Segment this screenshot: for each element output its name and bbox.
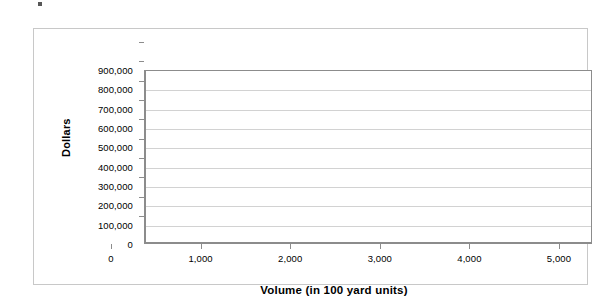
gridline	[146, 226, 591, 227]
gridline	[146, 187, 591, 188]
y-axis-tick-mark	[139, 177, 144, 178]
plot-area	[144, 70, 592, 244]
y-axis-tick-mark	[139, 61, 144, 62]
y-axis-tick-mark	[139, 139, 144, 140]
x-axis-title: Volume (in 100 yard units)	[34, 284, 600, 296]
x-axis-tick-mark	[469, 244, 470, 249]
x-axis-tick-mark	[111, 244, 112, 249]
x-axis-tick-mark	[201, 244, 202, 249]
gridline	[146, 148, 591, 149]
y-axis-tick-mark	[139, 158, 144, 159]
gridline	[146, 90, 591, 91]
gridline	[146, 168, 591, 169]
y-axis-tick-mark	[139, 100, 144, 101]
x-axis-tick-mark	[290, 244, 291, 249]
y-axis-tick-mark	[139, 216, 144, 217]
y-axis-tick-label: 500,000	[98, 142, 133, 153]
gridline	[146, 206, 591, 207]
y-axis-tick-label-group: 0100,000200,000300,000400,000500,000600,…	[67, 70, 139, 244]
x-axis-tick-label: 5,000	[547, 253, 571, 264]
y-axis-tick-label: 400,000	[98, 161, 133, 172]
x-axis-tick-mark	[559, 244, 560, 249]
scan-artifact-speck	[38, 2, 42, 6]
x-axis-tick-label: 0	[108, 253, 113, 264]
y-axis-tick-label: 300,000	[98, 181, 133, 192]
y-axis-tick-label: 700,000	[98, 103, 133, 114]
x-axis-tick-label: 1,000	[188, 253, 212, 264]
y-axis-tick-label: 200,000	[98, 200, 133, 211]
y-axis-tick-mark	[139, 81, 144, 82]
chart-figure-frame: Dollars 0100,000200,000300,000400,000500…	[33, 28, 588, 285]
x-axis-tick-mark	[380, 244, 381, 249]
y-axis-tick-label: 600,000	[98, 123, 133, 134]
gridline	[146, 129, 591, 130]
x-axis-tick-label: 4,000	[457, 253, 481, 264]
gridline	[146, 110, 591, 111]
x-axis-tick-label: 3,000	[368, 253, 392, 264]
y-axis-tick-mark	[139, 42, 144, 43]
x-axis-tick-label: 2,000	[278, 253, 302, 264]
y-axis-tick-label: 0	[128, 239, 133, 250]
y-axis-tick-label: 800,000	[98, 84, 133, 95]
y-axis-tick-label: 900,000	[98, 65, 133, 76]
y-axis-tick-mark	[139, 197, 144, 198]
y-axis-tick-mark	[139, 119, 144, 120]
y-axis-tick-label: 100,000	[98, 219, 133, 230]
horizontal-gridline-group	[146, 71, 591, 242]
